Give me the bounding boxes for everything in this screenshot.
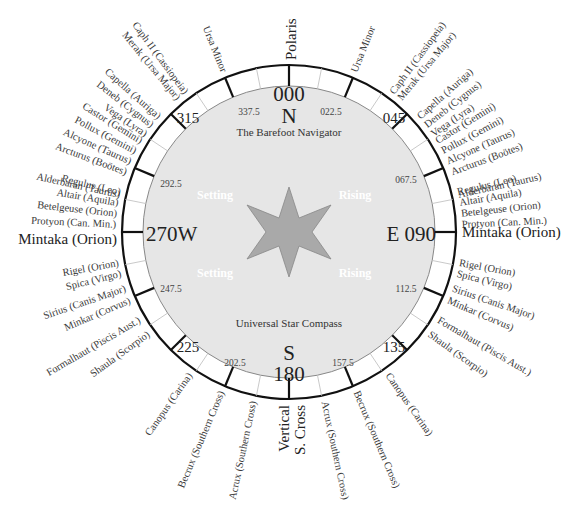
south-number: 180: [273, 362, 305, 386]
north-letter: N: [281, 104, 296, 128]
setting-lower: Setting: [197, 266, 233, 280]
bearing-067-5: 067.5: [395, 175, 417, 185]
bearing-292-5: 292.5: [160, 179, 182, 189]
star-label: Protyon (Can. Min.): [31, 215, 117, 231]
star-label: Canopus (Carina): [143, 370, 196, 438]
label-west-mintaka: Mintaka (Orion): [18, 231, 117, 248]
star-label: Becrux (Southern Cross): [176, 389, 228, 490]
north-number: 000: [273, 82, 305, 106]
west-label: 270W: [146, 222, 198, 246]
setting-upper: Setting: [197, 188, 233, 202]
bearing-202-5: 202.5: [224, 358, 246, 368]
bearing-247-5: 247.5: [160, 284, 182, 294]
star-label: Acrux (Southern Cross): [227, 400, 260, 501]
bearing-157-5: 157.5: [332, 358, 354, 368]
bearing-022-5: 022.5: [320, 107, 342, 117]
bearing-315: 315: [177, 110, 200, 126]
bearing-135: 135: [383, 339, 406, 355]
star-label: Becrux (Southern Cross): [351, 389, 403, 490]
star-label: Ursa Minor: [349, 24, 378, 74]
rising-upper: Rising: [339, 188, 372, 202]
rising-lower: Rising: [339, 266, 372, 280]
title-bottom: Universal Star Compass: [236, 317, 342, 329]
label-polaris: Polaris: [283, 18, 299, 60]
bearing-225: 225: [177, 339, 200, 355]
east-label: E 090: [386, 222, 436, 246]
bearing-045: 045: [383, 110, 406, 126]
star-label: Ursa Minor: [201, 24, 230, 74]
star-compass-diagram: The Barefoot Navigator Universal Star Co…: [0, 0, 580, 511]
star-label: Canopus (Carina): [383, 371, 436, 439]
compass-svg: The Barefoot Navigator Universal Star Co…: [0, 0, 580, 511]
bearing-337-5: 337.5: [238, 107, 260, 117]
label-vertical: Vertical: [276, 405, 292, 452]
bearing-112-5: 112.5: [395, 284, 416, 294]
star-label: Acrux (Southern Cross): [319, 400, 352, 501]
label-s-cross: S. Cross: [292, 405, 308, 455]
